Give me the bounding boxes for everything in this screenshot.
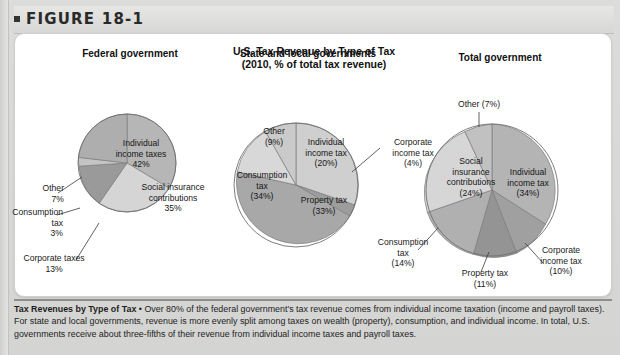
label-federal-social-insurance: Social insurance contributions 35% [133, 182, 213, 214]
label-state-individual-income-tax: Individual income tax (20%) [295, 137, 357, 169]
label-total-consumption-tax: Consumption tax (14%) [372, 237, 434, 269]
label-state-consumption-tax: Consumption tax (34%) [231, 170, 293, 202]
label-total-other: Other (7%) [440, 99, 518, 110]
label-state-property-tax: Property tax (33%) [292, 195, 356, 216]
label-federal-individual-income-taxes: Individual income taxes 42% [105, 138, 177, 170]
label-state-corporate-income-tax: Corporate income tax (4%) [382, 137, 444, 169]
caption-lead: Tax Revenues by Type of Tax [14, 304, 136, 314]
caption-divider [14, 299, 612, 301]
label-federal-other: Other 7% [16, 183, 64, 204]
label-federal-consumption-tax: Consumption tax 3% [5, 207, 63, 239]
label-total-property-tax: Property tax (11%) [452, 268, 518, 289]
label-total-corporate-income-tax: Corporate income tax (10%) [530, 245, 592, 277]
label-total-social-insurance: Social insurance contributions (24%) [440, 156, 502, 198]
figure-caption: Tax Revenues by Type of Tax • Over 80% o… [14, 303, 614, 340]
label-state-other: Other (9%) [250, 126, 298, 147]
label-total-individual-income-tax: Individual income tax (34%) [497, 167, 559, 199]
label-federal-corporate-taxes: Corporate taxes 13% [14, 253, 94, 274]
figure-page: FIGURE 18-1 U.S. Tax Revenue by Type of … [0, 0, 620, 355]
